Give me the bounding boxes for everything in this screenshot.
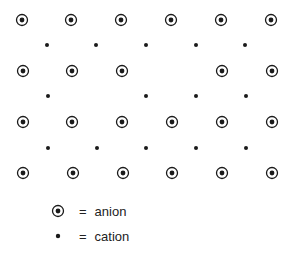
anion-icon (217, 66, 228, 77)
anion-icon (166, 15, 177, 26)
anion-icon (17, 15, 28, 26)
anion-icon (217, 168, 228, 179)
anion-icon (117, 117, 128, 128)
cation-icon (94, 43, 98, 47)
anion-icon (67, 117, 78, 128)
cation-icon (244, 94, 248, 98)
cation-icon (46, 94, 50, 98)
cation-icon (50, 228, 66, 244)
anion-icon (18, 168, 29, 179)
cation-icon (194, 94, 198, 98)
anion-icon (18, 66, 29, 77)
anion-icon (217, 117, 228, 128)
anion-icon (50, 203, 66, 219)
anion-icon (117, 66, 128, 77)
anion-icon (18, 117, 29, 128)
cation-icon (45, 43, 49, 47)
anion-icon (167, 117, 178, 128)
cation-icon (144, 43, 148, 47)
legend-label-cation: cation (95, 229, 130, 244)
anion-icon (267, 117, 278, 128)
legend-label-anion: anion (95, 204, 127, 219)
anion-icon (118, 168, 129, 179)
anion-icon (66, 15, 77, 26)
anion-icon (216, 15, 227, 26)
legend-item-cation: = cation (50, 228, 129, 244)
anion-icon (267, 168, 278, 179)
cation-icon (194, 146, 198, 150)
anion-icon (167, 168, 178, 179)
cation-icon (244, 146, 248, 150)
cation-icon (243, 43, 247, 47)
anion-icon (68, 168, 79, 179)
legend-equals: = (79, 204, 87, 219)
anion-icon (267, 66, 278, 77)
cation-icon (46, 146, 50, 150)
cation-layer (45, 43, 248, 150)
anion-icon (116, 15, 127, 26)
anion-icon (67, 66, 78, 77)
crystal-lattice (0, 0, 291, 253)
cation-icon (95, 146, 99, 150)
legend-item-anion: = anion (50, 203, 126, 219)
cation-icon (194, 43, 198, 47)
cation-icon (144, 94, 148, 98)
legend-equals: = (79, 229, 87, 244)
cation-icon (144, 146, 148, 150)
anion-icon (266, 15, 277, 26)
